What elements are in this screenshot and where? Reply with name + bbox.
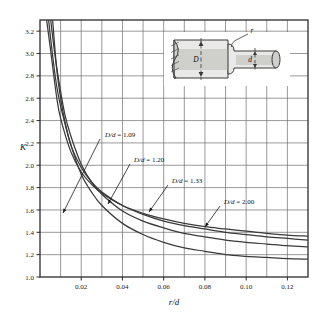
y-tick-label: 1.4 xyxy=(25,229,34,237)
x-tick-label: 0.08 xyxy=(199,283,212,291)
x-tick-label: 0.10 xyxy=(240,283,253,291)
y-tick-label: 1.0 xyxy=(25,274,34,282)
y-tick-label: 2.8 xyxy=(25,72,34,80)
y-tick-label: 1.2 xyxy=(25,251,34,259)
y-tick-label: 1.6 xyxy=(25,207,34,215)
x-axis-title: r/d xyxy=(169,297,180,307)
curve-label: D/d = 2.00 xyxy=(223,198,255,206)
x-tick-label: 0.12 xyxy=(281,283,294,291)
y-tick-label: 2.0 xyxy=(25,162,34,170)
y-tick-label: 3.0 xyxy=(25,50,34,58)
inset-diagram: Ddr xyxy=(164,26,290,86)
y-tick-label: 1.8 xyxy=(25,184,34,192)
stress-concentration-chart: 0.020.040.060.080.100.12 1.01.21.41.61.8… xyxy=(0,0,322,317)
curve-label: D/d = 1.09 xyxy=(104,131,136,139)
x-tick-label: 0.04 xyxy=(116,283,129,291)
x-tick-label: 0.02 xyxy=(75,283,88,291)
inset-small-shaft-core xyxy=(236,55,276,65)
chart-canvas: 0.020.040.060.080.100.12 1.01.21.41.61.8… xyxy=(0,0,322,317)
x-tick-label: 0.06 xyxy=(158,283,171,291)
curve-label: D/d = 1.33 xyxy=(171,177,203,185)
y-tick-label: 2.2 xyxy=(25,140,34,148)
inset-shaft-end-cap xyxy=(272,51,280,68)
y-axis-title: K xyxy=(19,142,27,152)
y-tick-label: 2.6 xyxy=(25,95,34,103)
y-tick-label: 2.4 xyxy=(25,117,34,125)
inset-label-d: d xyxy=(248,55,252,64)
curve-label: D/d = 1.20 xyxy=(133,156,165,164)
inset-label-r: r xyxy=(251,26,254,35)
y-tick-label: 3.2 xyxy=(25,28,34,36)
inset-label-D: D xyxy=(192,55,199,64)
